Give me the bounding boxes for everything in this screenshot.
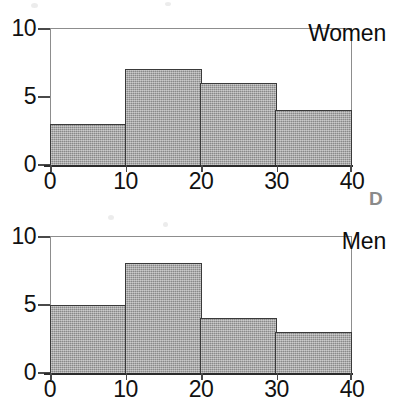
y-axis-label-women-10: 10 [2,17,36,40]
y-tick-women-5 [38,96,50,98]
scan-speckle [108,215,114,220]
y-label-wrap-women-5: 5 [0,85,36,108]
y-label-wrap-men-5: 5 [0,293,36,316]
x-axis-label-women-10: 10 [98,168,154,194]
scan-speckle [31,3,38,8]
x-axis-label-men-40: 40 [324,376,380,402]
x-axis-label-men-0: 0 [22,376,78,402]
figure-page: Women 10 5 0 0 10 20 30 40 D [0,0,398,418]
x-axis-label-men-30: 30 [249,376,305,402]
bars-women [50,28,352,165]
bar-women-2 [200,83,277,165]
x-axis-label-men-10: 10 [98,376,154,402]
y-label-wrap-men-10: 10 [0,225,36,248]
x-axis-label-women-0: 0 [22,168,78,194]
series-title-men: Men [342,228,386,254]
bars-men [50,236,352,373]
bar-men-2 [200,318,277,373]
scan-speckle [165,2,171,6]
corner-annotation-label: D [369,189,383,209]
chart-panel-women: Women 10 5 0 0 10 20 30 40 [0,14,398,194]
x-labels-women: 0 10 20 30 40 [50,168,352,196]
bar-women-1 [125,69,202,165]
y-tick-women-10 [38,28,50,30]
bar-women-3 [275,110,352,165]
chart-panel-men: Men 10 5 0 0 10 20 30 40 [0,222,398,412]
x-labels-men: 0 10 20 30 40 [50,376,352,404]
y-axis-label-men-5: 5 [2,293,36,316]
y-tick-men-5 [38,304,50,306]
x-axis-label-men-20: 20 [173,376,229,402]
y-label-wrap-women-10: 10 [0,17,36,40]
y-tick-men-10 [38,236,50,238]
x-axis-label-women-30: 30 [249,168,305,194]
series-title-women: Women [308,20,386,46]
bar-men-1 [125,263,202,373]
x-axis-label-women-20: 20 [173,168,229,194]
y-axis-label-men-10: 10 [2,225,36,248]
bar-women-0 [50,124,127,165]
y-axis-label-women-5: 5 [2,85,36,108]
bar-men-3 [275,332,352,373]
bar-men-0 [50,305,127,374]
